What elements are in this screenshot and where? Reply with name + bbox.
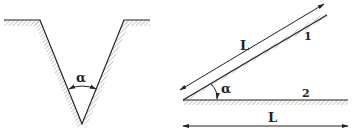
incline-number-label: 1 [304,30,312,43]
inclined-plane-diagram: L 1 α 2 L [180,4,348,126]
hatch-horizontal-plane [183,100,348,105]
horizontal-number-label: 2 [302,87,310,100]
horizontal-length-label: L [268,110,277,125]
incline-length-arrow [180,4,324,90]
v-groove-diagram: α [4,20,150,128]
hatch-right-wall [82,20,129,128]
hatch-left-wall [35,20,82,128]
hatch-right-ground [124,20,150,26]
incline-angle-arc [211,84,217,99]
figure-canvas: α L 1 α 2 L [0,0,352,134]
angle-label: α [76,70,86,85]
incline-length-label: L [240,38,249,53]
angle-arc [69,86,96,89]
incline-angle-label: α [221,81,231,96]
hatch-left-ground [4,20,40,26]
